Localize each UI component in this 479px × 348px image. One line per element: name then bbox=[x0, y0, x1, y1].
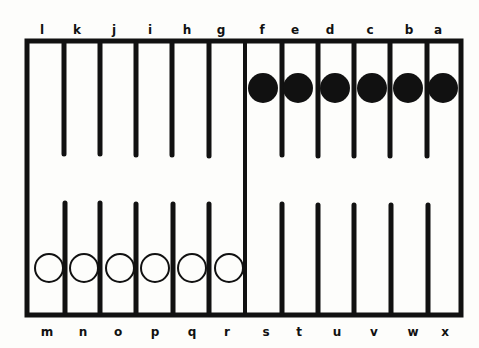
black-piece-f[interactable] bbox=[248, 73, 278, 103]
black-piece-d[interactable] bbox=[320, 73, 350, 103]
label-top-c: c bbox=[366, 23, 373, 37]
label-bottom-w: w bbox=[407, 325, 418, 339]
bottom-point-labels: m n o p q r s t u v w x bbox=[41, 325, 449, 339]
label-bottom-m: m bbox=[41, 325, 54, 339]
label-top-g: g bbox=[217, 23, 226, 37]
backgammon-board-diagram: l k j i h g f e d c b a m n o p q r s t … bbox=[0, 0, 479, 348]
white-piece-o[interactable] bbox=[106, 254, 134, 282]
label-bottom-x: x bbox=[441, 325, 449, 339]
label-bottom-n: n bbox=[79, 325, 88, 339]
label-top-b: b bbox=[405, 23, 414, 37]
label-top-l: l bbox=[40, 23, 44, 37]
label-top-j: j bbox=[111, 23, 116, 37]
black-piece-e[interactable] bbox=[283, 73, 313, 103]
white-piece-p[interactable] bbox=[141, 254, 169, 282]
white-piece-r[interactable] bbox=[215, 254, 243, 282]
white-piece-q[interactable] bbox=[178, 254, 206, 282]
black-piece-a[interactable] bbox=[428, 73, 458, 103]
label-top-k: k bbox=[73, 23, 82, 37]
label-top-f: f bbox=[259, 23, 265, 37]
label-bottom-q: q bbox=[188, 325, 197, 339]
label-top-i: i bbox=[148, 23, 152, 37]
label-bottom-o: o bbox=[114, 325, 122, 339]
label-top-e: e bbox=[291, 23, 299, 37]
label-bottom-t: t bbox=[296, 325, 302, 339]
label-bottom-r: r bbox=[224, 325, 230, 339]
black-piece-b[interactable] bbox=[393, 73, 423, 103]
label-top-h: h bbox=[183, 23, 192, 37]
white-piece-n[interactable] bbox=[70, 254, 98, 282]
label-top-a: a bbox=[434, 23, 442, 37]
black-piece-c[interactable] bbox=[357, 73, 387, 103]
label-bottom-s: s bbox=[262, 325, 269, 339]
label-top-d: d bbox=[326, 23, 335, 37]
white-piece-m[interactable] bbox=[35, 254, 63, 282]
label-bottom-u: u bbox=[333, 325, 342, 339]
label-bottom-v: v bbox=[370, 325, 378, 339]
label-bottom-p: p bbox=[151, 325, 160, 339]
top-point-labels: l k j i h g f e d c b a bbox=[40, 23, 442, 37]
